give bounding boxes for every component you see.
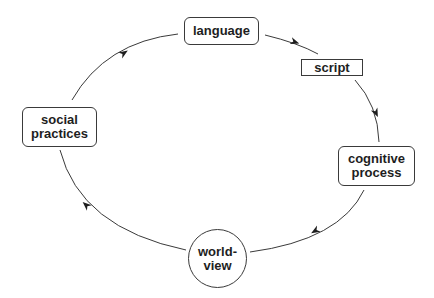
arrow-social-to-language — [72, 34, 178, 100]
arrow-cognitive-to-worldview — [250, 190, 364, 252]
node-cognitive-process: cognitive process — [338, 146, 415, 186]
arrow-worldview-to-social — [60, 150, 186, 250]
node-script: script — [301, 59, 363, 76]
node-world-view-line2: view — [203, 259, 231, 273]
node-script-label: script — [314, 61, 349, 75]
node-language-label: language — [193, 24, 250, 38]
arrowhead-worldview-to-social — [86, 205, 96, 214]
node-social-practices: social practices — [22, 107, 97, 147]
node-social-practices-line2: practices — [31, 127, 88, 141]
arrow-language-to-script — [265, 35, 318, 54]
node-world-view: world- view — [188, 229, 247, 288]
node-cognitive-process-line1: cognitive — [348, 152, 405, 166]
arrowhead-social-to-language — [113, 53, 124, 60]
node-cognitive-process-line2: process — [352, 166, 402, 180]
node-social-practices-line1: social — [41, 113, 78, 127]
node-language: language — [184, 17, 259, 45]
node-world-view-line1: world- — [198, 245, 237, 259]
arrow-script-to-cognitive — [355, 80, 379, 142]
arrowhead-script-to-cognitive — [370, 100, 376, 113]
